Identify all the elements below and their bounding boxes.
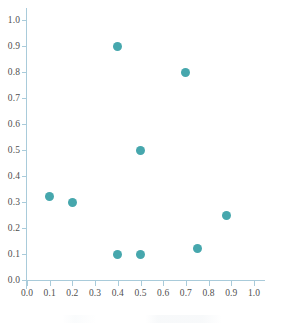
- x-axis-tick: [50, 281, 51, 286]
- bottom-edge-artifact: [62, 315, 222, 323]
- scatter-plot-figure: 0.00.10.20.30.40.50.60.70.80.91.0 0.00.1…: [0, 0, 284, 326]
- x-axis-tick: [118, 281, 119, 286]
- y-axis-tick-label: 0.3: [0, 197, 20, 207]
- data-point: [113, 42, 122, 51]
- x-axis-tick: [163, 281, 164, 286]
- x-axis-tick: [254, 281, 255, 286]
- x-axis-line: [26, 280, 265, 281]
- y-axis-tick-label: 0.5: [0, 145, 20, 155]
- data-point: [181, 68, 190, 77]
- x-axis-tick: [141, 281, 142, 286]
- y-axis-tick-label: 0.6: [0, 119, 20, 129]
- y-axis-tick-label: 0.9: [0, 41, 20, 51]
- y-axis-tick-label: 0.0: [0, 275, 20, 285]
- x-axis-tick: [72, 281, 73, 286]
- data-point: [113, 250, 122, 259]
- x-axis-tick: [231, 281, 232, 286]
- x-axis-tick: [95, 281, 96, 286]
- data-point: [193, 244, 202, 253]
- x-axis-tick: [209, 281, 210, 286]
- x-axis-tick: [186, 281, 187, 286]
- data-point: [68, 198, 77, 207]
- y-axis-tick-label: 1.0: [0, 15, 20, 25]
- data-point: [136, 146, 145, 155]
- data-point: [136, 250, 145, 259]
- y-axis-tick-label: 0.7: [0, 93, 20, 103]
- y-axis-tick-label: 0.8: [0, 67, 20, 77]
- y-axis-tick-label: 0.2: [0, 223, 20, 233]
- y-axis-tick-label: 0.1: [0, 249, 20, 259]
- data-point: [222, 211, 231, 220]
- x-axis-tick-label: 1.0: [241, 288, 267, 298]
- x-axis-tick: [27, 281, 28, 286]
- y-axis-tick-label: 0.4: [0, 171, 20, 181]
